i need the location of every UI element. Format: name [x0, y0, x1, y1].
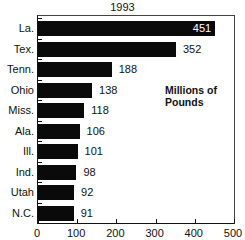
x-tick-label: 100 [61, 227, 91, 239]
bar [38, 185, 74, 200]
bar-value-label: 451 [193, 21, 211, 36]
units-annotation: Millions of Pounds [165, 84, 234, 108]
x-tick [234, 219, 235, 223]
x-tick-label: 300 [140, 227, 170, 239]
bar-value-label: 352 [183, 42, 201, 57]
category-label: Ind. [16, 165, 34, 180]
category-label: Utah [11, 185, 34, 200]
bar-value-label: 188 [119, 62, 137, 77]
bar [38, 83, 92, 98]
category-label: Ala. [15, 124, 34, 139]
bar-value-label: 92 [81, 185, 93, 200]
x-tick [156, 219, 157, 223]
category-label: Tex. [14, 42, 34, 57]
bar [38, 124, 80, 139]
y-tick [38, 80, 42, 81]
x-tick [116, 219, 117, 223]
bar-value-label: 91 [81, 206, 93, 221]
category-label: Miss. [8, 103, 34, 118]
y-tick [38, 162, 42, 163]
bar-value-label: 101 [85, 144, 103, 159]
x-tick-label: 0 [22, 227, 52, 239]
category-label: Ohio [11, 83, 34, 98]
y-tick [38, 18, 42, 19]
category-label: N.C. [12, 206, 34, 221]
bar-value-label: 138 [99, 83, 117, 98]
category-label: Tenn. [7, 62, 34, 77]
bar [38, 21, 215, 36]
x-tick [38, 219, 39, 223]
bar [38, 62, 112, 77]
x-tick-label: 400 [179, 227, 209, 239]
plot-area: Millions of Pounds 451352188138118106101… [37, 15, 235, 224]
bar-value-label: 118 [91, 103, 109, 118]
y-tick [38, 182, 42, 183]
x-tick-label: 500 [218, 227, 245, 239]
bar [38, 144, 78, 159]
y-tick [38, 203, 42, 204]
bar-value-label: 98 [83, 165, 95, 180]
bar [38, 206, 74, 221]
bar [38, 165, 76, 180]
y-tick [38, 141, 42, 142]
chart-title: 1993 [0, 1, 245, 13]
y-tick [38, 59, 42, 60]
y-tick [38, 121, 42, 122]
category-label: La. [19, 21, 34, 36]
x-tick-label: 200 [100, 227, 130, 239]
bar-value-label: 106 [87, 124, 105, 139]
bar [38, 103, 84, 118]
category-label: Ill. [23, 144, 34, 159]
x-tick [77, 219, 78, 223]
y-tick [38, 100, 42, 101]
bar [38, 42, 176, 57]
y-tick [38, 39, 42, 40]
x-tick [195, 219, 196, 223]
